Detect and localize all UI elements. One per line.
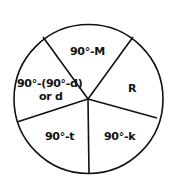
sector-label-left-line1: 90°-(90°-d) xyxy=(17,78,82,90)
sector-label-left-line2: or d xyxy=(39,91,63,103)
sector-diagram: 90°-M R 90°-k 90°-t 90°-(90°-d) or d xyxy=(0,0,170,186)
divider-bottom xyxy=(88,99,89,174)
sector-label-top: 90°-M xyxy=(70,46,105,58)
sector-label-bottom-right: 90°-k xyxy=(104,131,135,143)
sector-label-bottom-left: 90°-t xyxy=(45,131,74,143)
diagram-canvas xyxy=(0,0,170,186)
sector-label-right: R xyxy=(128,83,136,95)
divider-right xyxy=(88,99,157,118)
